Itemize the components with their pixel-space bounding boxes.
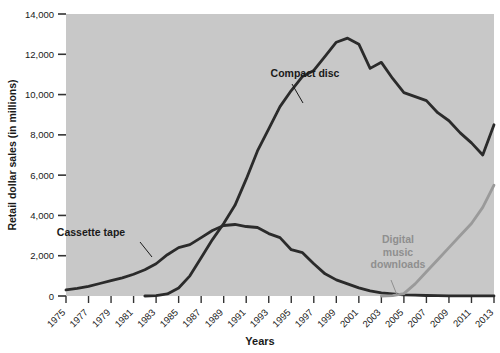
y-axis-tick-labels: 02,0004,0006,0008,00010,00012,00014,000 <box>25 9 54 302</box>
x-axis-tick-label: 1997 <box>292 307 315 330</box>
digital-downloads-annotation: Digital <box>382 233 414 245</box>
digital-downloads-annotation: downloads <box>371 258 426 270</box>
retail-music-sales-line-chart: 02,0004,0006,0008,00010,00012,00014,000 … <box>0 0 500 353</box>
x-axis-tick-label: 2005 <box>383 307 406 330</box>
y-axis-tick-label: 10,000 <box>25 89 54 100</box>
y-axis-tick-label: 14,000 <box>25 9 54 20</box>
x-axis-tick-label: 1975 <box>45 307 68 330</box>
x-axis-tick-label: 2013 <box>473 307 496 330</box>
y-axis-tick-label: 0 <box>49 291 54 302</box>
cassette-tape-annotation: Cassette tape <box>57 226 125 238</box>
y-axis-ticks <box>58 14 66 296</box>
y-axis-tick-label: 8,000 <box>30 129 54 140</box>
chart-container: 02,0004,0006,0008,00010,00012,00014,000 … <box>0 0 500 353</box>
x-axis-tick-label: 2011 <box>451 307 473 329</box>
x-axis-tick-label: 2003 <box>360 307 383 330</box>
x-axis-tick-label: 1985 <box>157 307 180 330</box>
x-axis-tick-label: 1993 <box>247 307 270 330</box>
y-axis-tick-label: 12,000 <box>25 49 54 60</box>
plot-area-background <box>66 14 494 296</box>
y-axis-tick-label: 2,000 <box>30 250 54 261</box>
y-axis-tick-label: 6,000 <box>30 170 54 181</box>
x-axis-title: Years <box>245 335 274 347</box>
digital-downloads-annotation: music <box>383 246 414 258</box>
y-axis-title: Retail dollar sales (in millions) <box>6 79 18 230</box>
x-axis-tick-label: 2001 <box>338 307 361 330</box>
x-axis-tick-label: 2007 <box>405 307 428 330</box>
x-axis-tick-label: 1991 <box>225 307 248 330</box>
x-axis-tick-label: 1981 <box>112 307 135 330</box>
x-axis-tick-label: 1999 <box>315 307 338 330</box>
x-axis-tick-label: 1989 <box>202 307 225 330</box>
x-axis-tick-labels: 1975197719791981198319851987198919911993… <box>45 307 496 330</box>
y-axis-tick-label: 4,000 <box>30 210 54 221</box>
compact-disc-annotation: Compact disc <box>271 67 340 79</box>
x-axis-ticks <box>66 296 494 303</box>
x-axis-tick-label: 1977 <box>67 307 90 330</box>
x-axis-tick-label: 1983 <box>135 307 158 330</box>
x-axis-tick-label: 1995 <box>270 307 293 330</box>
x-axis-tick-label: 2009 <box>428 307 451 330</box>
x-axis-tick-label: 1979 <box>90 307 113 330</box>
x-axis-tick-label: 1987 <box>180 307 203 330</box>
